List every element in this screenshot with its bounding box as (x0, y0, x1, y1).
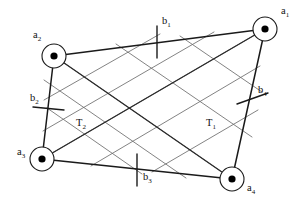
quadrilateral-lattice-diagram: a1a2a3a4b1b2b3b4T1T2 (0, 0, 303, 202)
diagonal-label-diag-T2-subscript: 2 (82, 123, 86, 131)
tick-label-b3: b3 (143, 171, 152, 185)
tick-label-b1: b1 (162, 15, 171, 29)
figure-root: a1a2a3a4b1b2b3b4T1T2 (0, 0, 303, 202)
diagonal-diag-T1 (42, 29, 265, 159)
node-dot-a1[interactable] (261, 25, 268, 32)
tick-label-b4-subscript: 4 (263, 90, 267, 98)
diagonal-line-group (42, 29, 265, 179)
node-label-a1-subscript: 1 (286, 11, 290, 19)
lattice-line-lat-d1-2 (44, 80, 186, 178)
tick-label-b2: b2 (30, 92, 39, 106)
node-label-a4: a4 (247, 182, 256, 196)
tick-label-b2-subscript: 2 (35, 98, 39, 106)
lattice-line-group (42, 29, 265, 179)
node-label-a1: a1 (281, 5, 290, 19)
diagonal-label-diag-T1-subscript: 1 (212, 123, 216, 131)
edge-a2-a1 (54, 29, 265, 56)
quadrilateral-edge-group (42, 29, 265, 179)
diagonal-label-diag-T1: T1 (206, 117, 216, 131)
node-dot-a3[interactable] (38, 155, 45, 162)
tick-label-b3-subscript: 3 (148, 177, 152, 185)
node-dot-a2[interactable] (50, 52, 57, 59)
node-label-a4-subscript: 4 (252, 188, 256, 196)
tick-label-b1-subscript: 1 (167, 21, 171, 29)
node-label-a2: a2 (33, 29, 42, 43)
node-label-a2-subscript: 2 (38, 35, 42, 43)
lattice-line-lat-d1-4 (116, 44, 252, 137)
node-label-a3: a3 (17, 146, 26, 160)
lattice-line-lat-d2-5 (152, 110, 258, 172)
node-label-a3-subscript: 3 (22, 152, 26, 160)
node-dot-a4[interactable] (228, 175, 235, 182)
lattice-line-lat-d2-3 (44, 34, 160, 100)
